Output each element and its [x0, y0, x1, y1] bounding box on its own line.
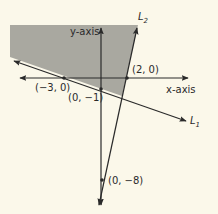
point-0-neg8 — [100, 178, 104, 182]
point-label-0-neg8: (0, −8) — [108, 175, 143, 186]
inequality-graph: y-axis x-axis (−3, 0) (2, 0) (0, −1) (0,… — [0, 0, 218, 214]
point-neg3-0 — [62, 76, 66, 80]
point-label-neg3-0: (−3, 0) — [35, 82, 70, 93]
line-label-l1: L1 — [190, 115, 200, 129]
point-label-2-0: (2, 0) — [132, 64, 159, 75]
point-2-0 — [125, 76, 129, 80]
y-axis-label: y-axis — [70, 26, 99, 37]
line-label-l2: L2 — [138, 11, 149, 25]
point-label-0-neg1: (0, −1) — [68, 92, 103, 103]
point-0-neg1 — [99, 87, 103, 91]
x-axis-label: x-axis — [166, 84, 196, 95]
